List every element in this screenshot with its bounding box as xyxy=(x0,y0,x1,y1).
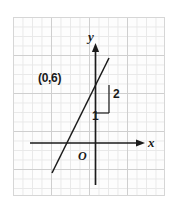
origin-label: O xyxy=(78,150,87,162)
slope-run-label: 1 xyxy=(92,110,99,122)
graph-figure: y x (0,6) 2 1 O xyxy=(0,0,180,212)
x-axis xyxy=(30,139,145,146)
y-intercept-label: (0,6) xyxy=(38,72,61,84)
x-axis-label: x xyxy=(148,136,155,149)
slope-rise-label: 2 xyxy=(113,88,120,100)
y-axis-label: y xyxy=(88,30,94,43)
